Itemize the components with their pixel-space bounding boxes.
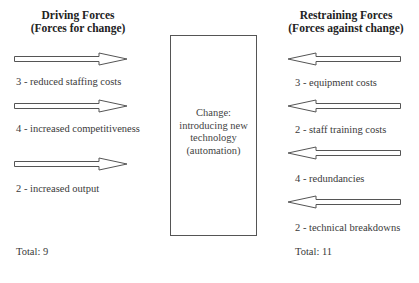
restraining-forces-title: Restraining Forces — [281, 9, 411, 22]
change-line: Change: — [171, 107, 256, 120]
driving-total: Total: 9 — [16, 246, 48, 258]
restraining-force-label: 4 - redundancies — [295, 173, 364, 185]
change-box: Change: introducing new technology (auto… — [170, 35, 257, 236]
restraining-force-label: 3 - equipment costs — [295, 77, 377, 89]
driving-forces-heading: Driving Forces (Forces for change) — [18, 9, 138, 35]
change-line: (automation) — [171, 145, 256, 158]
driving-force-label: 4 - increased competitiveness — [16, 123, 140, 135]
restraining-force-label: 2 - staff training costs — [295, 124, 386, 136]
driving-force-label: 3 - reduced staffing costs — [16, 76, 121, 88]
right-arrow-icon — [14, 157, 128, 171]
left-arrow-icon — [287, 52, 401, 66]
left-arrow-icon — [287, 146, 401, 160]
change-line: introducing new — [171, 120, 256, 133]
change-line: technology — [171, 132, 256, 145]
left-arrow-icon — [287, 99, 401, 113]
left-arrow-icon — [287, 195, 401, 209]
restraining-forces-heading: Restraining Forces (Forces against chang… — [281, 9, 411, 35]
restraining-total: Total: 11 — [295, 246, 332, 258]
restraining-forces-subtitle: (Forces against change) — [281, 22, 411, 35]
right-arrow-icon — [14, 99, 128, 113]
driving-forces-title: Driving Forces — [18, 9, 138, 22]
right-arrow-icon — [14, 52, 128, 66]
driving-forces-subtitle: (Forces for change) — [18, 22, 138, 35]
driving-force-label: 2 - increased output — [16, 183, 99, 195]
restraining-force-label: 2 - technical breakdowns — [295, 222, 400, 234]
change-description: Change: introducing new technology (auto… — [171, 107, 256, 157]
